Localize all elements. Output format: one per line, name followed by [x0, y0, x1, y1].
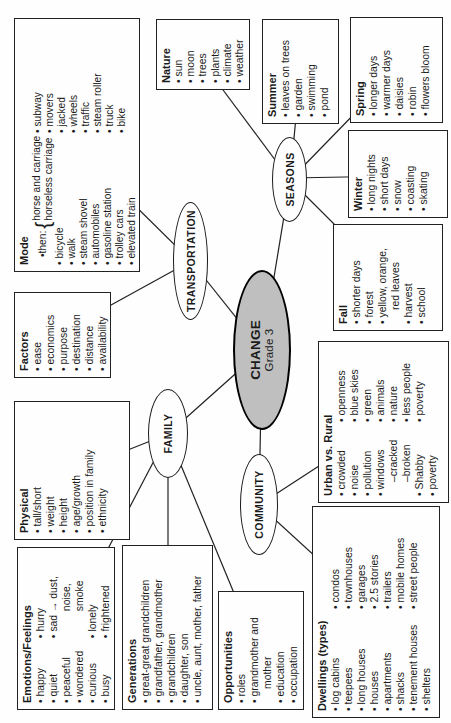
bullet-item: jacked: [56, 73, 68, 133]
bullet-item: great-great grandchildren: [139, 552, 152, 703]
bullet-item: grandmother and: [248, 598, 261, 703]
bullet-item: bike: [116, 73, 128, 133]
bullet-item-continuation: red leaves: [389, 231, 402, 324]
bullet-item: weight: [44, 408, 57, 533]
bullet-item: animals: [374, 363, 387, 422]
bullet-item: forest: [363, 231, 376, 324]
center-title: CHANGE: [249, 320, 263, 380]
node-family: FAMILY: [148, 389, 188, 478]
bullet-item: then: { horse and carriage horseless car…: [31, 133, 54, 265]
bullet-item-continuation: mother: [261, 598, 274, 703]
bullet-item: Shabby: [413, 422, 426, 496]
bullet-item-continuation: noise, smoke: [60, 554, 86, 638]
bullet-item: log cabins: [329, 609, 342, 711]
fall-list: shorter days forest yellow, orange, red …: [350, 231, 428, 324]
bullet-item: shelters: [420, 609, 433, 711]
summer-list: leaves on trees garden swimming pond: [279, 26, 331, 117]
node-seasons-label: SEASONS: [284, 152, 296, 206]
mode-col1: then: { horse and carriage horseless car…: [31, 133, 138, 265]
bullet-item: crowded: [335, 422, 348, 496]
bullet-item: warmer days: [380, 24, 393, 116]
bullet-item: traffic: [80, 73, 92, 133]
physical-box: Physical tall/short weight height age/gr…: [14, 401, 130, 540]
bullet-item: garages: [355, 538, 368, 609]
node-community: COMMUNITY: [240, 454, 278, 555]
fall-box: Fall shorter days forest yellow, orange,…: [333, 224, 443, 331]
brace-glyph: {: [33, 221, 53, 231]
bullet-item: roles: [235, 598, 248, 703]
bullet-item: grandfather, grandmother: [152, 552, 165, 703]
bullet-item: skating: [417, 137, 430, 211]
spring-box: Spring longer days warmer days daisies r…: [350, 17, 443, 123]
generations-box: Generations great-great grandchildren gr…: [122, 545, 213, 710]
bullet-item: tall/short: [31, 408, 44, 533]
bullet-item: street people: [407, 538, 420, 609]
bullet-item: position in family: [83, 408, 96, 533]
bullet-item: trees: [197, 26, 209, 83]
bullet-item: age/growth: [70, 408, 83, 533]
bullet-item: sun: [173, 26, 185, 83]
then-options: horse and carriage horseless carriage: [31, 136, 54, 221]
bullet-item: walk: [66, 133, 78, 265]
bullet-item: mobile homes: [394, 538, 407, 609]
summer-title: Summer: [266, 26, 279, 117]
bullet-item: snow: [391, 137, 404, 211]
factors-list: ease economics purpose destination dista…: [31, 299, 109, 371]
bullet-item: gasoline station: [102, 133, 114, 265]
nature-box: Nature sun moon trees plants climate wea…: [156, 19, 250, 90]
dwellings-col1: log cabins teepees long houses houses ap…: [329, 609, 433, 711]
spring-list: longer days warmer days daisies robin fl…: [367, 24, 432, 116]
mode-title: Mode: [18, 25, 31, 265]
bullet-item: ethnicity: [96, 408, 109, 533]
urban-col: crowded noise pollution windows –cracked…: [335, 422, 439, 496]
generations-title: Generations: [126, 552, 139, 703]
rural-col: openness blue skies green animals nature…: [335, 363, 439, 422]
bullet-item: long nights: [365, 137, 378, 211]
bullet-item-continuation: –cracked: [387, 422, 400, 496]
urban-vs-rural-box: Urban vs. Rural crowded noise pollution …: [318, 341, 449, 503]
bullet-item: ease: [31, 299, 44, 371]
bullet-item: sad → dust,: [47, 554, 60, 638]
bullet-item: school: [415, 231, 428, 324]
bullet-item: quiet: [47, 638, 60, 703]
node-family-label: FAMILY: [162, 414, 174, 454]
bullet-item: availability: [96, 299, 109, 371]
center-node-change: CHANGE Grade 3: [233, 270, 291, 430]
bullet-item: occupation: [287, 598, 300, 703]
bullet-item: nature: [387, 363, 400, 422]
bullet-item: frightened: [99, 554, 112, 638]
bullet-item: teepees: [342, 609, 355, 711]
node-transportation-label: TRANSPORTATION: [185, 210, 197, 312]
emotions-feelings-box: Emotions/Feelings happy quiet peaceful w…: [17, 547, 115, 710]
mode-col2: subway movers jacked wheels traffic stea…: [32, 73, 138, 133]
bullet-item: subway: [32, 73, 44, 133]
bullet-item: garden: [292, 26, 305, 117]
bullet-item: peaceful: [60, 638, 73, 703]
bullet-item: windows: [374, 422, 387, 496]
bullet-item: tenement houses: [407, 609, 420, 711]
bullet-item: wheels: [68, 73, 80, 133]
summer-box: Summer leaves on trees garden swimming p…: [262, 19, 339, 124]
bullet-item: green: [361, 363, 374, 422]
nature-list: sun moon trees plants climate weather: [173, 26, 246, 83]
emotions-col2: hurry sad → dust, noise, smoke lonely fr…: [34, 554, 112, 638]
spring-title: Spring: [354, 24, 367, 116]
dwellings-title: Dwellings (types): [316, 513, 329, 711]
bullet-item: harvest: [402, 231, 415, 324]
bullet-item: long houses: [355, 609, 368, 711]
mode-box: Mode then: { horse and carriage horseles…: [14, 18, 140, 272]
bullet-item: poverty: [426, 422, 439, 496]
bullet-item: coasting: [404, 137, 417, 211]
bullet-item: yellow, orange,: [376, 231, 389, 324]
emotions-feelings-title: Emotions/Feelings: [21, 554, 34, 703]
bullet-item: apartments: [381, 609, 394, 711]
bullet-item: flowers bloom: [419, 24, 432, 116]
concept-map-page: CHANGE Grade 3 TRANSPORTATION SEASONS FA…: [0, 0, 451, 723]
bullet-item: automobiles: [90, 133, 102, 265]
bullet-item: poverty: [413, 363, 426, 422]
opportunities-title: Opportunities: [222, 598, 235, 703]
bullet-item: steam shovel: [78, 133, 90, 265]
bullet-item: bicycle: [54, 133, 66, 265]
bullet-item: shacks: [394, 609, 407, 711]
bullet-item: trailers: [381, 538, 394, 609]
